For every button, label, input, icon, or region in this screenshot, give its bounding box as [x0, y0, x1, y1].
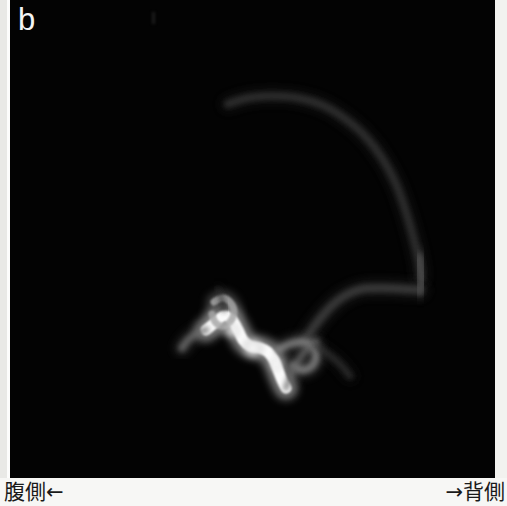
mra-figure-panel: b 腹側← →背側	[0, 0, 507, 506]
scan-background	[10, 0, 495, 478]
right-margin-strip	[495, 0, 507, 478]
left-margin-strip	[0, 0, 10, 478]
vessel-render-canvas	[10, 0, 495, 478]
panel-letter: b	[18, 4, 35, 35]
vessel-hotspot-brightest-node	[240, 335, 266, 361]
angiography-image: b	[10, 0, 495, 478]
vessel-hotspot-tertiary-node	[267, 355, 285, 373]
dorsal-direction-label: →背側	[445, 480, 505, 505]
ventral-direction-label: 腹側←	[4, 480, 64, 505]
vessel-hotspot-secondary-node	[222, 321, 242, 341]
vessel-core-descending-limb-vessel	[419, 258, 422, 290]
orientation-caption-row: 腹側← →背側	[0, 478, 507, 506]
image-speck	[152, 12, 155, 24]
